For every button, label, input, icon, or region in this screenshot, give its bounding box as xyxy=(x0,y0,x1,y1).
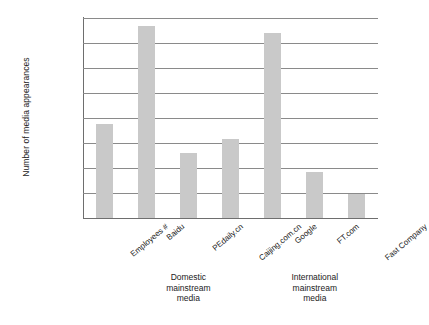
bar xyxy=(138,26,155,218)
gridline xyxy=(83,18,378,19)
x-tick-label: FT.com xyxy=(335,222,361,246)
group-annotation-line: mainstream xyxy=(143,283,233,294)
group-annotation-line: International xyxy=(270,272,360,283)
group-annotation-line: mainstream xyxy=(270,283,360,294)
group-annotation: Internationalmainstreammedia xyxy=(270,272,360,304)
x-tick-label: Fast Company xyxy=(383,222,429,262)
plot-area xyxy=(83,18,378,218)
bar xyxy=(348,194,365,218)
gridline xyxy=(83,43,378,44)
gridline xyxy=(83,218,378,219)
group-annotation-line: media xyxy=(143,293,233,304)
bar xyxy=(306,172,323,218)
group-annotation-line: media xyxy=(270,293,360,304)
bar xyxy=(264,33,281,218)
group-annotation: Domesticmainstreammedia xyxy=(143,272,233,304)
bar xyxy=(96,124,113,218)
bar xyxy=(180,153,197,218)
y-axis-title: Number of media appearances xyxy=(21,32,31,202)
gridline xyxy=(83,68,378,69)
x-tick-label: PEdaily.cn xyxy=(211,222,245,253)
bar xyxy=(222,139,239,218)
gridline xyxy=(83,118,378,119)
group-annotation-line: Domestic xyxy=(143,272,233,283)
x-tick-label: Baidu xyxy=(165,222,186,242)
gridline xyxy=(83,93,378,94)
x-tick-label: Employees # xyxy=(129,222,170,259)
